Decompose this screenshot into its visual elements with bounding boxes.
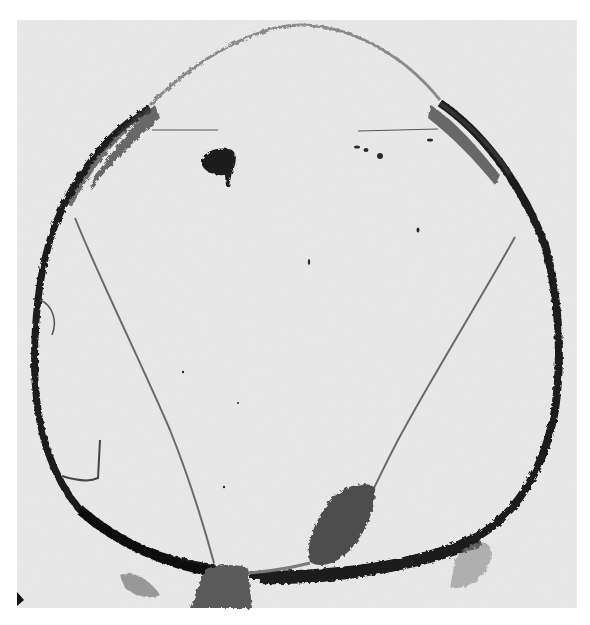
eye-section-photomicrograph [0, 0, 590, 625]
